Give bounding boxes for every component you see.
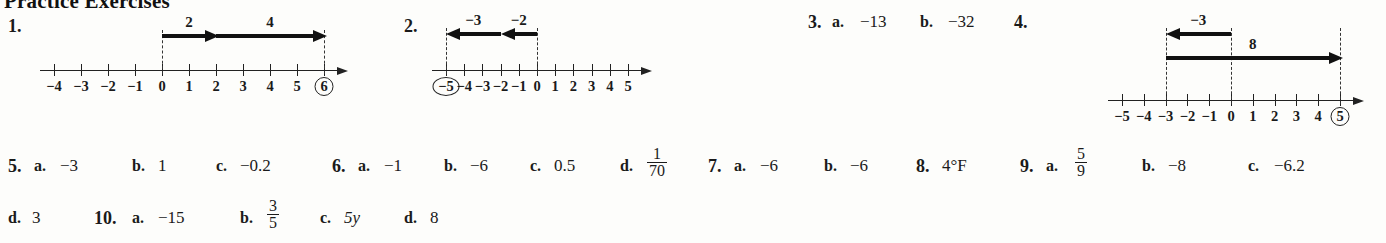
axis-tick [216, 64, 217, 76]
axis-tick [592, 64, 593, 76]
guide-dashed-line [1231, 28, 1232, 104]
exercise-10-part-b-fraction: 3 5 [266, 198, 280, 232]
vector-label: −3 [1190, 12, 1206, 29]
tick-label: 4 [1315, 108, 1322, 125]
axis-tick [1187, 94, 1188, 106]
exercise-9-part-d-value: 3 [32, 208, 41, 228]
vector-arrowhead-icon [446, 28, 460, 40]
tick-label: 0 [158, 78, 165, 95]
exercise-10-part-a-letter: a. [132, 209, 144, 227]
exercise-6-part-c-value: 0.5 [554, 156, 575, 176]
axis-tick [610, 64, 611, 76]
tick-label: −2 [100, 78, 116, 95]
tick-label: −4 [1136, 108, 1152, 125]
tick-label: 2 [212, 78, 219, 95]
exercise-9-part-b-letter: b. [1142, 157, 1155, 175]
number-line-2: −5−4−3−2−1012345−2−3 [432, 48, 654, 102]
axis-tick [1253, 94, 1254, 106]
tick-label: −2 [493, 78, 509, 95]
exercise-7-number: 7. [708, 156, 722, 177]
fraction-denominator: 9 [1075, 162, 1087, 179]
fraction-numerator: 5 [1075, 146, 1087, 162]
answer-key-page: Practice Exercises 1. −4−3−2−1012345624 … [0, 0, 1386, 243]
guide-dashed-line [1340, 28, 1341, 104]
tick-label: −3 [73, 78, 89, 95]
exercise-6-part-c-letter: c. [530, 157, 541, 175]
vector-arrow-shaft [1176, 32, 1231, 36]
tick-label: −4 [46, 78, 62, 95]
exercise-10-part-c-letter: c. [320, 209, 331, 227]
tick-label: 5 [293, 78, 300, 95]
exercise-5-part-a-letter: a. [34, 157, 46, 175]
vector-label: −2 [511, 12, 527, 29]
exercise-6-part-a-letter: a. [358, 157, 370, 175]
axis-tick [1144, 94, 1145, 106]
fraction-numerator: 3 [267, 198, 279, 214]
tick-label: −1 [1201, 108, 1217, 125]
exercise-7-part-a-value: −6 [760, 156, 778, 176]
axis-arrowhead-icon [337, 67, 348, 75]
exercise-5-part-b-letter: b. [132, 157, 145, 175]
exercise-8-number: 8. [916, 156, 930, 177]
exercise-10-number: 10. [94, 208, 117, 229]
exercise-6-part-d-letter: d. [620, 157, 633, 175]
axis-arrowhead-icon [1353, 97, 1364, 105]
exercise-9-part-c-letter: c. [1248, 157, 1259, 175]
exercise-5-part-b-value: 1 [158, 156, 167, 176]
exercise-6-part-d-fraction: 1 70 [646, 146, 668, 180]
exercise-5-part-c-value: −0.2 [240, 156, 271, 176]
axis-tick [189, 64, 190, 76]
fraction-denominator: 70 [647, 162, 667, 179]
exercise-7-part-a-letter: a. [734, 157, 746, 175]
fraction-denominator: 5 [267, 214, 279, 231]
axis-tick [482, 64, 483, 76]
vector-arrow-shaft [162, 34, 206, 38]
axis-tick [573, 64, 574, 76]
tick-label: 2 [570, 78, 577, 95]
vector-arrow-shaft [456, 32, 501, 36]
exercise-9-part-b-value: −8 [1168, 156, 1186, 176]
tick-label: 3 [239, 78, 246, 95]
exercise-3-part-a-letter: a. [832, 13, 844, 31]
tick-label: 3 [1293, 108, 1300, 125]
tick-label: 1 [1249, 108, 1256, 125]
circled-answer-label: 5 [1331, 107, 1350, 126]
fraction-numerator: 1 [647, 146, 667, 162]
axis-tick [54, 64, 55, 76]
axis-tick [243, 64, 244, 76]
exercise-6-part-b-value: −6 [470, 156, 488, 176]
vector-arrowhead-icon [1166, 28, 1180, 40]
axis-tick [464, 64, 465, 76]
circled-answer-label: 6 [315, 77, 334, 96]
exercise-3-part-b-value: −32 [948, 12, 975, 32]
vector-arrow-shaft [216, 34, 314, 38]
number-line-1: −4−3−2−1012345624 [40, 48, 350, 102]
axis-tick [1318, 94, 1319, 106]
tick-label: −2 [1180, 108, 1196, 125]
tick-label: 1 [552, 78, 559, 95]
exercise-10-part-c-value: 5y [344, 208, 360, 228]
exercise-3-number: 3. [808, 12, 822, 33]
vector-label: 2 [185, 14, 193, 31]
tick-label: −4 [456, 78, 472, 95]
axis-tick [81, 64, 82, 76]
exercise-10-part-b-letter: b. [240, 209, 253, 227]
exercise-2-number: 2. [404, 16, 418, 37]
vector-label: 8 [1249, 36, 1257, 53]
vector-arrowhead-icon [1329, 52, 1343, 64]
axis-tick [297, 64, 298, 76]
axis-tick [555, 64, 556, 76]
axis-tick [1122, 94, 1123, 106]
guide-dashed-line [537, 28, 538, 74]
tick-label: 3 [588, 78, 595, 95]
tick-label: −1 [127, 78, 143, 95]
axis-arrowhead-icon [641, 67, 652, 75]
exercise-9-part-d-letter: d. [8, 209, 21, 227]
exercise-5-number: 5. [8, 156, 22, 177]
vector-arrow-shaft [1166, 56, 1330, 60]
tick-label: 2 [1271, 108, 1278, 125]
exercise-9-part-a-fraction: 5 9 [1074, 146, 1088, 180]
axis-tick [1275, 94, 1276, 106]
exercise-6-number: 6. [332, 156, 346, 177]
exercise-3-part-b-letter: b. [920, 13, 933, 31]
